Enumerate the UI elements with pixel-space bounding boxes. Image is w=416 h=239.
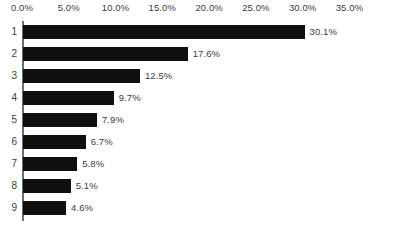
- bar-row: 130.1%: [0, 21, 416, 43]
- bar-value-label: 7.9%: [102, 109, 124, 131]
- bar-value-label: 17.6%: [193, 43, 220, 65]
- category-label: 6: [0, 131, 17, 153]
- category-label: 7: [0, 153, 17, 175]
- bar-value-label: 5.1%: [76, 175, 98, 197]
- x-tick-label: 15.0%: [149, 2, 176, 13]
- bar-value-label: 30.1%: [310, 21, 337, 43]
- x-tick-label: 5.0%: [58, 2, 80, 13]
- bar-row: 57.9%: [0, 109, 416, 131]
- bar-row: 94.6%: [0, 197, 416, 219]
- x-axis-tick-labels: 0.0%5.0%10.0%15.0%20.0%25.0%30.0%35.0%: [0, 0, 416, 16]
- category-label: 8: [0, 175, 17, 197]
- plot-area: 130.1%217.6%312.5%49.7%57.9%66.7%75.8%85…: [0, 16, 416, 239]
- category-label: 1: [0, 21, 17, 43]
- bar-chart: 0.0%5.0%10.0%15.0%20.0%25.0%30.0%35.0% 1…: [0, 0, 416, 239]
- bar-row: 49.7%: [0, 87, 416, 109]
- bar: [23, 69, 140, 83]
- bar: [23, 47, 188, 61]
- category-label: 2: [0, 43, 17, 65]
- bar: [23, 179, 71, 193]
- bar: [23, 157, 77, 171]
- x-tick-label: 0.0%: [11, 2, 33, 13]
- bar-row: 75.8%: [0, 153, 416, 175]
- x-tick-label: 10.0%: [102, 2, 129, 13]
- bar-row: 66.7%: [0, 131, 416, 153]
- bar: [23, 91, 114, 105]
- category-label: 5: [0, 109, 17, 131]
- category-label: 4: [0, 87, 17, 109]
- category-label: 9: [0, 197, 17, 219]
- bar: [23, 201, 66, 215]
- bar-value-label: 6.7%: [91, 131, 113, 153]
- bar-row: 85.1%: [0, 175, 416, 197]
- bar-value-label: 9.7%: [119, 87, 141, 109]
- x-tick-label: 25.0%: [242, 2, 269, 13]
- bar-row: 312.5%: [0, 65, 416, 87]
- x-tick-label: 20.0%: [195, 2, 222, 13]
- bar-value-label: 12.5%: [145, 65, 172, 87]
- bar: [23, 135, 86, 149]
- x-tick-label: 35.0%: [336, 2, 363, 13]
- x-tick-label: 30.0%: [289, 2, 316, 13]
- bar-row: 217.6%: [0, 43, 416, 65]
- bar: [23, 25, 305, 39]
- bar-value-label: 4.6%: [71, 197, 93, 219]
- category-label: 3: [0, 65, 17, 87]
- bar-value-label: 5.8%: [82, 153, 104, 175]
- bar: [23, 113, 97, 127]
